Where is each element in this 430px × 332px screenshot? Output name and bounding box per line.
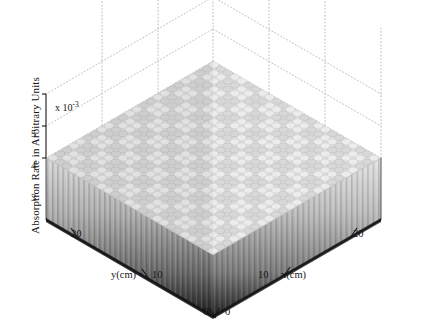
z-axis-title: Absorption Rate in Arbitrary Units (30, 61, 41, 251)
z-tick-label-5: 5 (31, 129, 36, 140)
bar-field (46, 61, 381, 319)
x-tick-label-20: 20 (353, 229, 364, 240)
x-tick-label-0: 0 (225, 307, 230, 318)
y-tick-label-0: 0 (203, 307, 208, 318)
y-tick-label-10: 10 (152, 270, 163, 281)
figure-canvas: Absorption Rate in Arbitrary Units x 10-… (0, 0, 430, 332)
plot-svg (0, 0, 430, 332)
x-axis-title: x(cm) (281, 270, 306, 281)
z-multiplier-exponent: -3 (73, 100, 79, 109)
z-axis-multiplier: x 10-3 (55, 101, 79, 113)
y-axis-title: y(cm) (111, 270, 136, 281)
z-tick-label-3: 3 (31, 193, 36, 204)
z-axis (42, 94, 46, 158)
x-tick-label-10: 10 (258, 270, 269, 281)
z-tick-label-4: 4 (31, 161, 36, 172)
y-tick-label-20: 20 (71, 229, 82, 240)
z-multiplier-base: x 10 (55, 102, 73, 113)
